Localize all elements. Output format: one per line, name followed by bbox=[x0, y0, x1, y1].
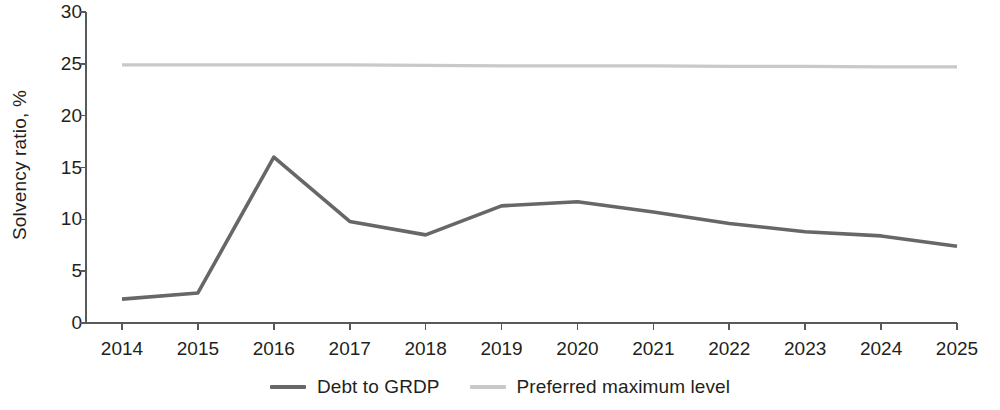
legend-label: Debt to GRDP bbox=[317, 376, 440, 398]
chart-legend: Debt to GRDPPreferred maximum level bbox=[0, 376, 1000, 398]
chart-figure: Solvency ratio, % 051015202530 201420152… bbox=[0, 0, 1000, 410]
axes bbox=[80, 12, 957, 330]
series-line bbox=[122, 65, 957, 67]
legend-item[interactable]: Debt to GRDP bbox=[270, 376, 440, 398]
data-series bbox=[122, 65, 957, 299]
legend-swatch-icon bbox=[270, 385, 306, 389]
legend-item[interactable]: Preferred maximum level bbox=[470, 376, 730, 398]
series-line bbox=[122, 157, 957, 299]
plot-area bbox=[0, 0, 1000, 410]
legend-swatch-icon bbox=[470, 385, 506, 389]
legend-label: Preferred maximum level bbox=[517, 376, 730, 398]
